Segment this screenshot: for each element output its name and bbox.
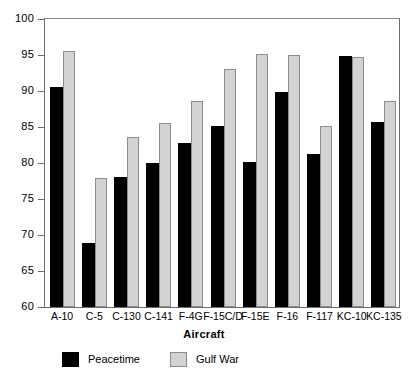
bar-gulf-war xyxy=(224,69,236,307)
x-tick-label: A-10 xyxy=(51,310,73,322)
y-tick-label: 60 xyxy=(21,301,34,312)
bar-group xyxy=(178,19,203,307)
x-axis: A-10C-5C-130C-141F-4GF-15C/DF-15EF-16F-1… xyxy=(45,310,399,326)
legend-label: Gulf War xyxy=(196,354,239,365)
bar-peacetime xyxy=(211,126,224,307)
x-tick-label: C-130 xyxy=(112,310,141,322)
bar-gulf-war xyxy=(63,51,75,307)
bar-gulf-war xyxy=(191,101,203,307)
x-tick-label: C-141 xyxy=(144,310,173,322)
bar-peacetime xyxy=(50,87,63,307)
bar-peacetime xyxy=(307,154,320,307)
bar-peacetime xyxy=(371,122,384,307)
x-tick-label: C-5 xyxy=(86,310,103,322)
black-square-swatch xyxy=(62,352,79,367)
bar-peacetime xyxy=(114,177,127,307)
x-tick-label: F-16 xyxy=(277,310,299,322)
bar-gulf-war xyxy=(352,57,364,307)
bar-peacetime xyxy=(275,92,288,307)
bar-gulf-war xyxy=(384,101,396,307)
bar-group xyxy=(243,19,268,307)
x-tick-label: F-4G xyxy=(179,310,203,322)
bar-gulf-war xyxy=(256,54,268,307)
bar-peacetime xyxy=(146,163,159,307)
bar-peacetime xyxy=(178,143,191,307)
bar-group xyxy=(275,19,300,307)
y-tick-label: 80 xyxy=(21,157,34,168)
bar-group xyxy=(307,19,332,307)
y-tick-label: 100 xyxy=(15,13,34,24)
bar-group xyxy=(211,19,236,307)
legend-entry: Peacetime xyxy=(62,352,140,367)
y-tick-label: 90 xyxy=(21,85,34,96)
bar-peacetime xyxy=(339,56,352,307)
gray-square-swatch xyxy=(170,352,187,367)
x-tick-label: F-15E xyxy=(241,310,270,322)
bar-group xyxy=(82,19,107,307)
bar-group xyxy=(339,19,364,307)
x-axis-title-text: Aircraft xyxy=(183,328,225,340)
chart-legend: PeacetimeGulf War xyxy=(62,352,239,367)
x-tick-label: KC-10 xyxy=(337,310,367,322)
bar-chart: 1009590858075706560 A-10C-5C-130C-141F-4… xyxy=(0,0,416,390)
bar-group xyxy=(114,19,139,307)
plot-area xyxy=(45,19,399,307)
x-tick-label: KC-135 xyxy=(366,310,402,322)
bar-group xyxy=(50,19,75,307)
bar-gulf-war xyxy=(288,55,300,307)
bar-group xyxy=(146,19,171,307)
y-tick-label: 85 xyxy=(21,121,34,132)
y-tick-label: 70 xyxy=(21,229,34,240)
bar-group xyxy=(371,19,396,307)
x-axis-title: Aircraft xyxy=(0,328,416,340)
y-tick-label: 65 xyxy=(21,265,34,276)
x-tick-label: F-15C/D xyxy=(203,310,243,322)
bar-peacetime xyxy=(82,243,95,307)
bar-gulf-war xyxy=(127,137,139,307)
bar-gulf-war xyxy=(159,123,171,307)
legend-entry: Gulf War xyxy=(170,352,239,367)
bar-peacetime xyxy=(243,162,256,307)
y-tick-label: 95 xyxy=(21,49,34,60)
bar-gulf-war xyxy=(320,126,332,307)
y-tick-label: 75 xyxy=(21,193,34,204)
bar-gulf-war xyxy=(95,178,107,307)
x-tick-label: F-117 xyxy=(306,310,333,322)
legend-label: Peacetime xyxy=(88,354,140,365)
